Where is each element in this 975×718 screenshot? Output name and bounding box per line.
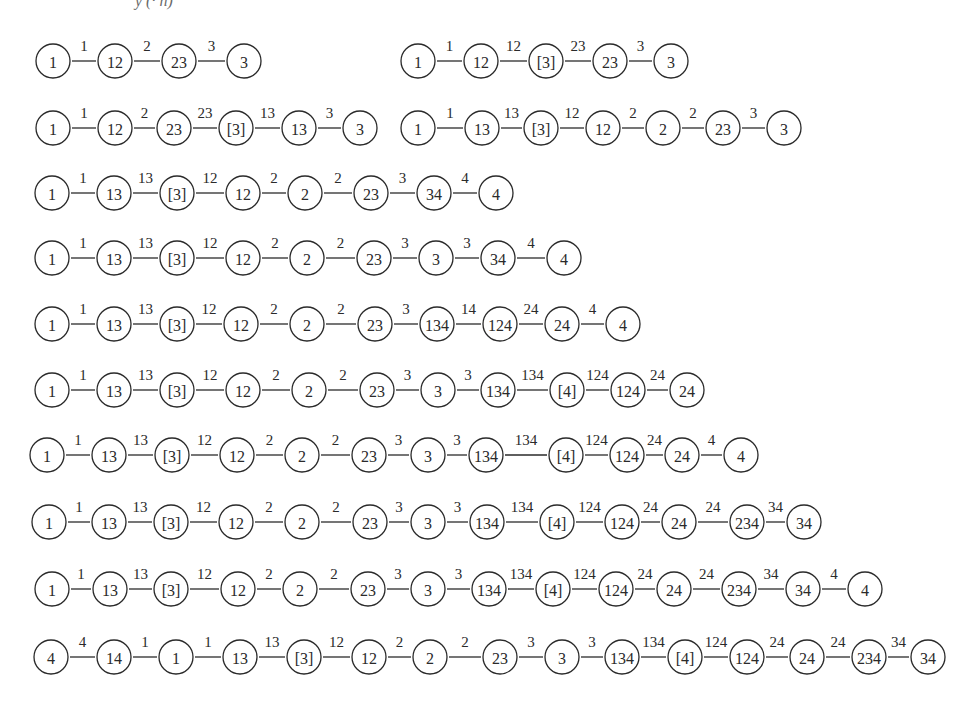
node: 4 [479, 176, 513, 210]
node: 3 [421, 373, 455, 407]
node-label: 23 [171, 54, 187, 71]
edge: 124 [585, 432, 608, 455]
node-label: 12 [235, 251, 251, 268]
node: 23 [358, 307, 392, 341]
node-label: [3] [532, 121, 551, 138]
node: 13 [97, 241, 131, 275]
edge-label: 3 [394, 566, 402, 582]
edge-label: 3 [326, 105, 334, 121]
node-label: 134 [610, 650, 634, 667]
node-label: 12 [233, 317, 249, 334]
edge: 2 [388, 634, 411, 657]
node: 124 [611, 373, 645, 407]
node-label: 234 [735, 515, 759, 532]
node: [3] [154, 505, 188, 539]
edge-label: 24 [650, 367, 666, 383]
edge-label: 23 [198, 105, 213, 121]
node: 13 [465, 111, 499, 145]
node: 2 [285, 505, 319, 539]
edge-label: 1 [77, 566, 85, 582]
edge: 24 [519, 301, 543, 324]
edge: 1 [72, 38, 96, 61]
edge-label: 12 [506, 38, 521, 54]
node-label: 3 [424, 515, 432, 532]
node-label: 1 [48, 251, 56, 268]
edge-label: 134 [642, 634, 665, 650]
node-label: 13 [102, 582, 118, 599]
node: 1 [36, 44, 70, 78]
node: [3] [160, 373, 194, 407]
edge: 14 [456, 301, 481, 324]
edge: 4 [822, 566, 846, 589]
edge-label: 1 [79, 170, 87, 186]
node: [3] [155, 438, 189, 472]
node: 24 [662, 505, 696, 539]
edge-label: 1 [80, 105, 88, 121]
node-label: 234 [857, 650, 881, 667]
edge: 23 [193, 105, 217, 128]
node: 23 [351, 572, 385, 606]
edge: 2 [262, 235, 288, 258]
node: 2 [290, 241, 324, 275]
node-label: [4] [548, 515, 567, 532]
node-label: 3 [356, 121, 364, 138]
node: 34 [786, 572, 820, 606]
node-label: 2 [303, 317, 311, 334]
edge: 13 [128, 499, 152, 522]
edge-label: 1 [446, 105, 454, 121]
node-label: 2 [298, 448, 306, 465]
node-label: 12 [473, 54, 489, 71]
edge-label: 24 [524, 301, 540, 317]
node-label: [3] [168, 186, 187, 203]
node: 2 [292, 373, 326, 407]
node: 3 [411, 438, 445, 472]
edge-label: 1 [75, 499, 83, 515]
node-label: [4] [558, 383, 577, 400]
edge: 24 [698, 499, 728, 522]
node: 134 [469, 438, 503, 472]
chain-2b: 11312223113[3]122233 [401, 105, 801, 145]
edge: 13 [259, 634, 285, 657]
node-label: 3 [424, 448, 432, 465]
edge-label: 124 [586, 367, 609, 383]
edge: 2 [319, 566, 349, 589]
node-label: 12 [107, 121, 123, 138]
edge: 134 [641, 634, 666, 657]
edge: 3 [742, 105, 765, 128]
node-label: 3 [780, 121, 788, 138]
node-label: 124 [610, 515, 634, 532]
node-label: 134 [425, 317, 449, 334]
edge: 2 [134, 105, 155, 128]
chain-8: 113122233134124242434113[3]122233134[4]1… [32, 499, 821, 539]
node: 134 [420, 307, 454, 341]
edge: 124 [576, 499, 603, 522]
node-label: [3] [295, 650, 314, 667]
edge-label: 4 [79, 634, 87, 650]
node: 23 [157, 111, 191, 145]
node-label: 23 [602, 54, 618, 71]
edge: 1 [72, 105, 96, 128]
node-label: 234 [727, 582, 751, 599]
edge: 4 [70, 634, 95, 657]
node-label: 23 [492, 650, 508, 667]
edge-label: 2 [629, 105, 637, 121]
edge: 12 [196, 367, 224, 390]
edge-label: 24 [643, 499, 659, 515]
edge-label: 24 [706, 499, 722, 515]
node-label: 13 [106, 251, 122, 268]
edge: 13 [133, 170, 158, 193]
node-label: 1 [172, 650, 180, 667]
node: 1 [36, 111, 70, 145]
node: 13 [223, 640, 257, 674]
edge: 12 [500, 38, 527, 61]
edge: 1 [71, 170, 95, 193]
edge-label: 124 [578, 499, 601, 515]
edge-label: 4 [461, 170, 469, 186]
edge: 1 [133, 634, 157, 657]
edge-label: 13 [133, 432, 148, 448]
node-label: 2 [305, 383, 313, 400]
edge-label: 13 [133, 566, 148, 582]
edge-label: 3 [527, 634, 535, 650]
edge: 3 [393, 235, 417, 258]
edge-label: 4 [589, 301, 597, 317]
